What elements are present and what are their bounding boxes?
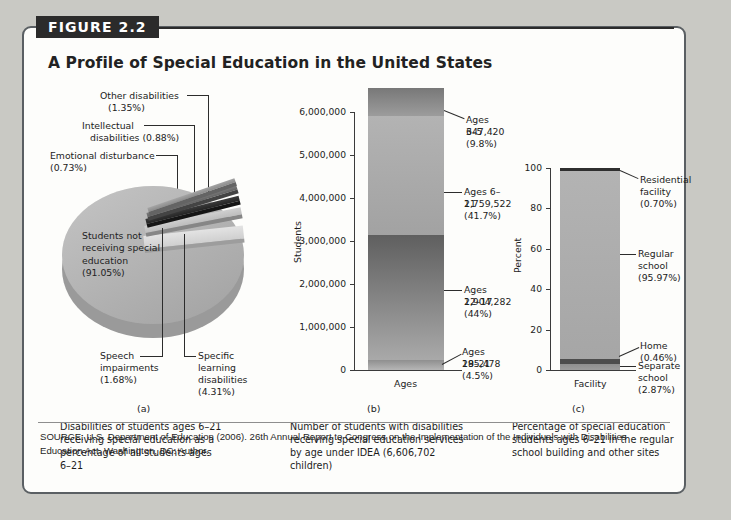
panel-b-tick-4000000 xyxy=(350,198,355,199)
panel-b-ticklabel-1000000: 1,000,000 xyxy=(282,321,346,332)
pie-center-line3: education xyxy=(82,255,186,267)
panel-c-ticklabel-80: 80 xyxy=(502,202,542,213)
panel-a-letter: (a) xyxy=(137,403,150,414)
panel-c-segment-regular-school xyxy=(560,171,620,359)
figure-card: FIGURE 2.2 A Profile of Special Educatio… xyxy=(22,26,686,494)
panel-c-tick-80 xyxy=(546,208,551,209)
pie-leader-other-h xyxy=(187,95,209,96)
panel-c-leader-home xyxy=(619,347,640,357)
pie-leader-specific-h xyxy=(184,356,196,357)
pie-label-speech-line1: Speech xyxy=(100,350,134,362)
panel-b-leader-ages-18-21 xyxy=(442,354,462,365)
panel-c-x-axis-title: Facility xyxy=(574,378,606,389)
panel-b-segment-ages-3-5 xyxy=(368,88,444,116)
chart-panel-b: 6,000,000 5,000,000 4,000,000 3,000,000 … xyxy=(282,88,502,418)
panel-b-tick-1000000 xyxy=(350,327,355,328)
panel-b-stacked-bar xyxy=(368,88,444,370)
panel-b-ticklabel-6000000: 6,000,000 xyxy=(282,106,346,117)
panel-b-label-ages-3-5-line2: 647,420 xyxy=(466,126,504,138)
panel-c-label-regular-line2: school (95.97%) xyxy=(638,260,692,284)
panel-b-label-ages-18-21-line3: (4.5%) xyxy=(462,370,493,382)
panel-c-x-axis xyxy=(550,370,636,371)
source-note: SOURCE: U.S. Department of Education (20… xyxy=(40,430,660,459)
panel-b-leader-ages-3-5 xyxy=(444,110,465,119)
panel-b-letter: (b) xyxy=(367,403,380,414)
panel-c-tick-100 xyxy=(546,168,551,169)
panel-c-label-regular-line1: Regular xyxy=(638,248,674,260)
panel-c-tick-20 xyxy=(546,330,551,331)
panel-c-leader-residential xyxy=(620,170,639,179)
panel-c-tick-40 xyxy=(546,289,551,290)
panel-b-ticklabel-5000000: 5,000,000 xyxy=(282,149,346,160)
panel-c-label-separate-line2: school (2.87%) xyxy=(638,372,692,396)
panel-b-y-axis-title: Students xyxy=(292,221,303,263)
panel-b-x-axis xyxy=(354,370,462,371)
panel-b-segment-ages-6-11 xyxy=(368,116,444,235)
panel-b-tick-2000000 xyxy=(350,284,355,285)
pie-leader-speech-v xyxy=(162,228,163,356)
panel-c-leader-separate xyxy=(620,366,636,367)
panel-c-label-residential-line2: facility (0.70%) xyxy=(640,186,692,210)
panel-b-segment-ages-18-21 xyxy=(368,360,444,370)
figure-title: A Profile of Special Education in the Un… xyxy=(48,54,492,72)
panel-b-label-ages-6-11-line3: (41.7%) xyxy=(464,210,501,222)
panel-b-label-ages-12-17-line3: (44%) xyxy=(464,308,492,320)
pie-label-specific-line2: learning xyxy=(198,362,236,374)
panel-b-tick-5000000 xyxy=(350,155,355,156)
panel-b-ticklabel-4000000: 4,000,000 xyxy=(282,192,346,203)
pie-label-other-line1: Other disabilities xyxy=(100,90,179,102)
panel-b-ticklabel-2000000: 2,000,000 xyxy=(282,278,346,289)
panel-c-ticklabel-0: 0 xyxy=(502,364,542,375)
panel-c-letter: (c) xyxy=(572,403,585,414)
pie-leader-emotional-h xyxy=(156,155,178,156)
pie-leader-speech-h xyxy=(140,356,163,357)
panel-c-ticklabel-40: 40 xyxy=(502,283,542,294)
panel-c-y-axis-title: Percent xyxy=(512,238,523,273)
pie-label-intellectual-line1: Intellectual xyxy=(82,120,134,132)
figure-number-badge: FIGURE 2.2 xyxy=(36,16,159,38)
pie-label-emotional-line2: (0.73%) xyxy=(50,162,87,174)
pie-leader-specific-v xyxy=(184,234,185,356)
panel-b-leader-ages-12-17 xyxy=(444,290,462,291)
panel-c-tick-0 xyxy=(546,370,551,371)
chart-panel-a: Other disabilities (1.35%) Intellectual … xyxy=(32,88,284,418)
panel-c-segment-separate-school xyxy=(560,364,620,370)
pie-label-speech-line2: impairments xyxy=(100,362,159,374)
pie-chart-a: Students not receiving special education… xyxy=(62,186,252,356)
pie-center-line2: receiving special xyxy=(82,242,186,254)
panel-b-label-ages-18-21-line2: 295,478 xyxy=(462,358,500,370)
pie-label-intellectual-line2: disabilities (0.88%) xyxy=(90,132,179,144)
panel-c-leader-regular xyxy=(620,254,636,255)
panel-c-ticklabel-20: 20 xyxy=(502,324,542,335)
panel-c-tick-60 xyxy=(546,249,551,250)
panel-c-label-separate-line1: Separate xyxy=(638,360,680,372)
panel-b-label-ages-3-5-line3: (9.8%) xyxy=(466,138,497,150)
panel-c-stacked-bar xyxy=(560,168,620,370)
chart-panel-c: 100 80 60 40 20 0 Percent Facility Resid… xyxy=(502,88,692,418)
pie-label-other-line2: (1.35%) xyxy=(108,102,145,114)
pie-label-specific-line3: disabilities xyxy=(198,374,247,386)
panel-b-leader-ages-6-11 xyxy=(444,192,462,193)
panel-b-tick-0 xyxy=(350,370,355,371)
source-divider xyxy=(38,422,670,423)
panel-c-ticklabel-100: 100 xyxy=(502,162,542,173)
pie-leader-intellectual-h xyxy=(144,125,195,126)
panel-b-x-axis-title: Ages xyxy=(394,378,417,389)
panel-b-segment-ages-12-17 xyxy=(368,235,444,360)
pie-label-emotional-line1: Emotional disturbance xyxy=(50,150,155,162)
pie-center-line4: (91.05%) xyxy=(82,267,186,279)
panel-c-label-residential-line1: Residential xyxy=(640,174,691,186)
pie-center-line1: Students not xyxy=(82,230,186,242)
panel-c-y-axis xyxy=(550,168,551,370)
panel-b-tick-6000000 xyxy=(350,112,355,113)
panel-b-tick-3000000 xyxy=(350,241,355,242)
panel-b-ticklabel-0: 0 xyxy=(282,364,346,375)
pie-label-specific-line4: (4.31%) xyxy=(198,386,235,398)
pie-label-specific-line1: Specific xyxy=(198,350,234,362)
pie-center-label: Students not receiving special education… xyxy=(82,230,186,279)
pie-label-speech-line3: (1.68%) xyxy=(100,374,137,386)
